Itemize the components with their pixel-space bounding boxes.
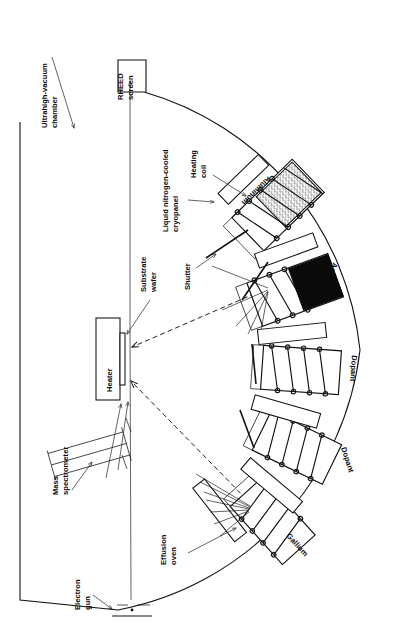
chamber-label-line1: Ultrahigh-vacuum [40, 63, 49, 128]
electron-gun-label-line1: Electron [73, 579, 82, 610]
cryopanel-callout: Liquid nitrogen-cooled cryopanel [161, 149, 214, 232]
effusion-cell-arsenic [235, 251, 344, 332]
effusion-cell-dopant-upper [250, 343, 341, 397]
diagram-canvas: Ultrahigh-vacuum chamber RHEED screen El… [0, 0, 394, 643]
dopant-lower-label: Dopant [339, 446, 356, 474]
shutter-label: Shutter [183, 263, 192, 290]
chamber-label-line2: chamber [50, 96, 59, 128]
shutter-dopant-lower [240, 410, 254, 448]
heater-label: Heater [105, 368, 114, 392]
substrate-label-line1: Substrate [139, 257, 148, 292]
dopant-upper-label: Dopant [348, 355, 359, 382]
cryopanel-label-line1: Liquid nitrogen-cooled [161, 149, 170, 232]
heating-coil-label-line2: coil [199, 165, 208, 178]
rheed-label-line1: RHEED [116, 73, 125, 100]
substrate-heater-assembly: Heater Substrate wafer [96, 257, 158, 400]
rheed-label-line2: screen [126, 75, 135, 100]
cryopanel-label-line2: cryopanel [171, 196, 180, 232]
effusion-oven-label-line2: oven [169, 547, 178, 565]
effusion-oven-label-line1: Effusion [159, 534, 168, 565]
substrate-label-line2: wafer [149, 272, 158, 293]
beam-from-gallium [131, 381, 252, 505]
beam-from-arsenic [132, 287, 270, 347]
electron-gun: Electron gun [73, 579, 152, 616]
mbe-chamber-figure: Ultrahigh-vacuum chamber RHEED screen El… [0, 0, 394, 643]
heating-coil-label-line1: Heating [189, 150, 198, 178]
shutter-aluminum [206, 230, 248, 258]
shutter-callout: Shutter [183, 254, 216, 290]
rheed-screen: RHEED screen [116, 73, 135, 100]
cryopanel-dopant-upper [257, 322, 326, 344]
substrate-wafer [120, 333, 125, 385]
mass-spectrometer: Mass spectrometer [47, 418, 132, 495]
mass-spec-label-line1: Mass [51, 476, 60, 495]
effusion-oven-callout: Effusion oven [159, 528, 236, 565]
electron-gun-label-line2: gun [83, 596, 92, 610]
chamber-callout: Ultrahigh-vacuum chamber [40, 57, 74, 128]
rheed-electron-beam [130, 82, 131, 600]
mass-spec-label-line2: spectrometer [61, 447, 70, 495]
